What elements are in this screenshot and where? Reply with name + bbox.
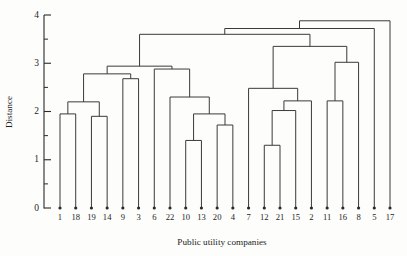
leaf-marker (294, 206, 297, 209)
y-axis-title: Distance (4, 96, 14, 128)
dendrogram-link (123, 79, 139, 208)
dendrogram-link (60, 114, 76, 208)
leaf-marker (90, 206, 93, 209)
leaf-label: 5 (372, 212, 376, 222)
leaf-marker (58, 206, 61, 209)
dendrogram-link (335, 62, 359, 208)
leaf-label: 13 (197, 212, 206, 222)
leaf-marker (106, 206, 109, 209)
dendrogram-link (91, 116, 107, 208)
y-tick-label: 2 (34, 106, 39, 116)
dendrogram-link (272, 111, 296, 208)
leaf-label: 19 (87, 212, 96, 222)
leaf-marker (326, 206, 329, 209)
x-axis-title: Public utility companies (177, 237, 267, 247)
dendrogram-link (327, 101, 343, 208)
leaf-marker (341, 206, 344, 209)
leaf-label: 22 (166, 212, 175, 222)
leaf-marker (168, 206, 171, 209)
dendrogram-link (186, 140, 202, 208)
leaf-label: 6 (152, 212, 157, 222)
leaf-marker (121, 206, 124, 209)
dendrogram-link (84, 74, 131, 102)
leaf-marker (247, 206, 250, 209)
leaf-marker (153, 206, 156, 209)
leaf-label: 8 (356, 212, 360, 222)
dendrogram-link (300, 21, 390, 208)
dendrogram-link (273, 46, 347, 88)
leaf-label: 17 (386, 212, 395, 222)
y-tick-label: 3 (34, 58, 39, 68)
leaf-label: 3 (136, 212, 140, 222)
leaf-label: 1 (58, 212, 62, 222)
leaf-marker (263, 206, 266, 209)
dendrogram-link (140, 34, 310, 66)
y-tick-label: 4 (34, 10, 39, 20)
leaf-marker (310, 206, 313, 209)
dendrogram-link (217, 125, 233, 208)
dendrogram-plot: 01234 1181914936221013204712211521116851… (0, 0, 407, 256)
y-tick-label: 0 (34, 203, 39, 213)
leaf-label: 12 (260, 212, 269, 222)
leaf-marker (200, 206, 203, 209)
dendrogram-leaves (58, 206, 391, 209)
y-axis: 01234 (34, 10, 51, 213)
leaf-label: 11 (323, 212, 331, 222)
leaf-marker (278, 206, 281, 209)
leaf-marker (388, 206, 391, 209)
leaf-marker (216, 206, 219, 209)
leaf-marker (357, 206, 360, 209)
leaf-label: 7 (246, 212, 251, 222)
leaf-label: 18 (71, 212, 80, 222)
dendrogram-figure: 01234 1181914936221013204712211521116851… (0, 0, 407, 256)
leaf-label: 21 (276, 212, 285, 222)
leaf-marker (184, 206, 187, 209)
leaf-label: 20 (213, 212, 222, 222)
leaf-label: 10 (181, 212, 190, 222)
dendrogram-link (264, 145, 280, 208)
dendrogram-link (225, 29, 375, 208)
leaf-label: 14 (103, 212, 112, 222)
dendrogram-link (107, 66, 172, 74)
dendrogram-link (284, 101, 312, 208)
leaf-label: 2 (309, 212, 313, 222)
leaf-marker (137, 206, 140, 209)
y-tick-label: 1 (34, 154, 39, 164)
leaf-label: 15 (291, 212, 300, 222)
dendrogram-link (194, 114, 225, 141)
leaf-marker (231, 206, 234, 209)
leaf-label: 16 (339, 212, 348, 222)
dendrogram-link (249, 88, 298, 208)
dendrogram-links (60, 21, 390, 208)
dendrogram-link (154, 69, 189, 208)
leaf-label: 4 (231, 212, 236, 222)
leaf-labels: 11819149362210132047122115211168517 (58, 212, 395, 222)
leaf-marker (373, 206, 376, 209)
leaf-label: 9 (121, 212, 125, 222)
leaf-marker (74, 206, 77, 209)
